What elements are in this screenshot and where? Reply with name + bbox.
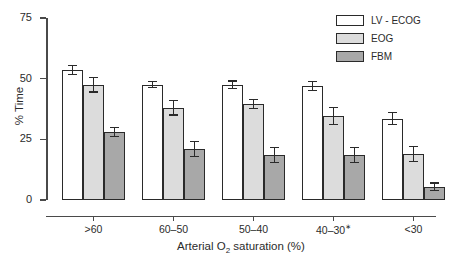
bar <box>382 119 403 200</box>
error-bar <box>413 147 414 162</box>
error-bar-cap-lower <box>430 190 439 191</box>
y-tick-25 <box>40 139 46 140</box>
error-bar-cap-upper <box>228 80 237 81</box>
y-axis-line <box>46 18 48 200</box>
error-bar-cap-upper <box>350 147 359 148</box>
x-axis-line <box>46 216 436 217</box>
error-bar-cap-upper <box>270 147 279 148</box>
y-tick-label-0: 0 <box>0 194 32 205</box>
error-bar <box>93 77 94 92</box>
x-tick-2 <box>253 216 254 221</box>
plot-area: 0255075 % Time >6060–5050–4040–30∗<30 Ar… <box>0 0 457 262</box>
error-bar-cap-lower <box>169 114 178 115</box>
error-bar-cap-lower <box>270 162 279 163</box>
legend-item-eog: EOG <box>336 31 421 46</box>
error-bar <box>274 147 275 163</box>
x-tick-0 <box>93 216 94 221</box>
error-bar-cap-lower <box>148 87 157 88</box>
bar <box>83 85 104 200</box>
x-axis-title-tail: saturation (%) <box>230 240 305 252</box>
legend-swatch-icon-lv-ecog <box>336 15 364 26</box>
error-bar-cap-lower <box>228 88 237 89</box>
x-axis-title-main: Arterial O <box>177 240 226 252</box>
x-tick-label-note-3: ∗ <box>345 223 351 230</box>
error-bar <box>194 141 195 157</box>
bar <box>243 104 264 200</box>
bar <box>163 108 184 200</box>
error-bar-cap-upper <box>68 65 77 66</box>
y-tick-50 <box>40 78 46 79</box>
error-bar-cap-upper <box>89 77 98 78</box>
error-bar-cap-lower <box>89 91 98 92</box>
error-bar <box>333 108 334 125</box>
error-bar-cap-lower <box>110 136 119 137</box>
bar <box>222 85 243 200</box>
x-tick-label-0: >60 <box>54 223 134 235</box>
legend-label-fbm: FBM <box>371 51 392 62</box>
bar <box>62 70 83 200</box>
error-bar-cap-lower <box>409 161 418 162</box>
error-bar-cap-lower <box>350 162 359 163</box>
x-axis-title: Arterial O2 saturation (%) <box>46 240 436 255</box>
error-bar-cap-lower <box>308 90 317 91</box>
error-bar-cap-lower <box>68 74 77 75</box>
error-bar <box>392 113 393 125</box>
x-tick-4 <box>413 216 414 221</box>
x-tick-label-2: 50–40 <box>214 223 294 235</box>
bar <box>323 116 344 200</box>
x-tick-label-1: 60–50 <box>134 223 214 235</box>
bar-chart-figure: 0255075 % Time >6060–5050–4040–30∗<30 Ar… <box>0 0 457 262</box>
error-bar-cap-upper <box>430 182 439 183</box>
error-bar-cap-upper <box>388 112 397 113</box>
bar <box>302 86 323 200</box>
y-axis-title: % Time <box>13 71 25 141</box>
error-bar-cap-lower <box>329 124 338 125</box>
x-tick-label-4: <30 <box>374 223 454 235</box>
y-tick-0 <box>40 199 46 200</box>
error-bar <box>173 101 174 116</box>
error-bar-cap-upper <box>148 81 157 82</box>
bar <box>104 132 125 200</box>
legend: LV - ECOG EOG FBM <box>336 13 421 67</box>
legend-item-lv-ecog: LV - ECOG <box>336 13 421 28</box>
legend-item-fbm: FBM <box>336 49 421 64</box>
bar <box>142 85 163 200</box>
error-bar-cap-upper <box>409 146 418 147</box>
error-bar <box>354 147 355 163</box>
error-bar-cap-lower <box>190 156 199 157</box>
error-bar-cap-upper <box>308 81 317 82</box>
error-bar-cap-upper <box>110 127 119 128</box>
legend-swatch-icon-fbm <box>336 51 364 62</box>
error-bar-cap-upper <box>329 107 338 108</box>
y-tick-75 <box>40 17 46 18</box>
x-tick-label-3: 40–30∗ <box>294 223 374 236</box>
y-tick-label-75: 75 <box>0 12 32 23</box>
error-bar-cap-lower <box>388 124 397 125</box>
error-bar-cap-upper <box>169 100 178 101</box>
error-bar-cap-upper <box>190 141 199 142</box>
legend-label-eog: EOG <box>371 33 393 44</box>
legend-swatch-icon-eog <box>336 33 364 44</box>
error-bar-cap-upper <box>249 99 258 100</box>
error-bar-cap-lower <box>249 108 258 109</box>
x-tick-1 <box>173 216 174 221</box>
x-tick-3 <box>333 216 334 221</box>
legend-label-lv-ecog: LV - ECOG <box>371 15 421 26</box>
